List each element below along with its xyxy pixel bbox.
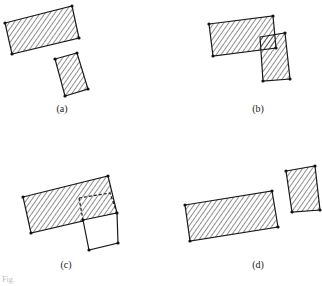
panel-c-shapes [23,176,118,250]
panel-label-b: (b) [252,103,264,114]
panel-label-a: (a) [56,103,67,114]
rect-small [55,53,88,96]
panel-label-c: (c) [60,259,71,270]
panel-b-shapes [209,16,290,81]
figure-canvas [0,0,322,286]
panel-label-d: (d) [252,259,264,270]
rect-large [185,191,278,241]
panel-d-shapes [185,166,320,241]
rect-large [5,6,79,54]
panel-a-shapes [5,6,88,96]
rect-small [260,33,290,81]
rect-small [286,166,320,212]
figure-caption: Fig. [2,275,15,284]
rect-small-unfilled [83,213,118,250]
